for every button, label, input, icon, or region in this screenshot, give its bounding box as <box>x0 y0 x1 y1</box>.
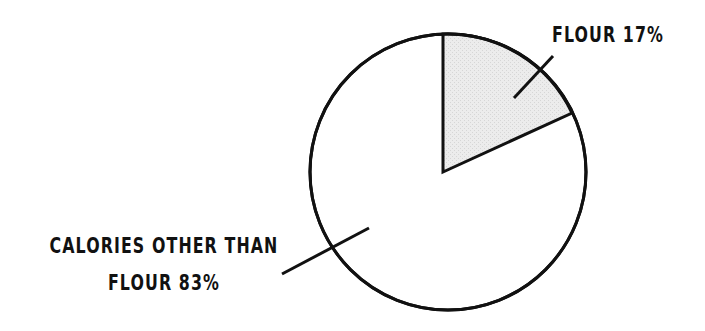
label-other-calories: CALORIES OTHER THAN FLOUR 83% <box>43 227 285 301</box>
label-other-line1: CALORIES OTHER THAN <box>43 227 285 264</box>
label-flour: FLOUR 17% <box>552 24 664 46</box>
label-other-line2: FLOUR 83% <box>43 264 285 301</box>
pie-chart: FLOUR 17% CALORIES OTHER THAN FLOUR 83% <box>0 0 705 331</box>
